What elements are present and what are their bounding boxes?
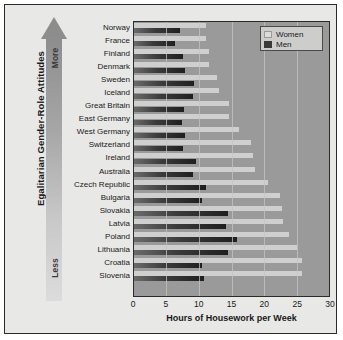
bar-men: [134, 120, 182, 125]
arrow-label-less: Less: [50, 248, 60, 288]
category-label: Denmark: [61, 60, 130, 73]
x-tick-label: 30: [325, 299, 334, 309]
bar-men: [134, 107, 184, 112]
category-label: Croatia: [61, 256, 130, 269]
bar-men: [134, 263, 202, 268]
category-label: Slovenia: [61, 269, 130, 282]
bar-men: [134, 159, 196, 164]
bar-women: [134, 219, 283, 224]
category-label: Lithuania: [61, 243, 130, 256]
x-axis-ticks: 051015202530: [133, 299, 330, 311]
x-tick-label: 10: [194, 299, 203, 309]
x-tick-label: 15: [227, 299, 236, 309]
bar-men: [134, 276, 204, 281]
x-tick-label: 20: [260, 299, 269, 309]
gridline: [199, 22, 200, 296]
chart-frame: Egalitarian Gender-Role Attitudes More L…: [4, 4, 337, 334]
bar-men: [134, 81, 194, 86]
category-label: Slovakia: [61, 204, 130, 217]
legend-label-men: Men: [276, 40, 292, 49]
category-label: West Germany: [61, 125, 130, 138]
bar-women: [134, 153, 253, 158]
category-label: Sweden: [61, 73, 130, 86]
legend-swatch-women-icon: [264, 31, 272, 38]
bar-women: [134, 101, 229, 106]
bar-women: [134, 23, 206, 28]
category-label: Poland: [61, 230, 130, 243]
arrow-label-more: More: [50, 38, 60, 78]
bar-men: [134, 146, 183, 151]
bar-women: [134, 88, 219, 93]
bar-women: [134, 140, 251, 145]
bar-men: [134, 237, 237, 242]
bar-women: [134, 258, 302, 263]
category-label: Finland: [61, 47, 130, 60]
bar-women: [134, 206, 282, 211]
category-label: Czech Republic: [61, 178, 130, 191]
category-label: France: [61, 34, 130, 47]
gridline: [264, 22, 265, 296]
bar-women: [134, 271, 302, 276]
category-label: East Germany: [61, 112, 130, 125]
category-axis-labels: NorwayFranceFinlandDenmarkSwedenIcelandG…: [61, 21, 130, 297]
x-tick-label: 5: [163, 299, 168, 309]
bar-women: [134, 49, 209, 54]
category-label: Switzerland: [61, 138, 130, 151]
bar-men: [134, 28, 180, 33]
bar-women: [134, 245, 297, 250]
gridline: [232, 22, 233, 296]
bar-men: [134, 224, 226, 229]
bar-men: [134, 54, 183, 59]
bar-men: [134, 68, 185, 73]
bar-men: [134, 94, 193, 99]
legend-swatch-men-icon: [264, 41, 272, 48]
bar-men: [134, 185, 206, 190]
category-label: Bulgaria: [61, 191, 130, 204]
legend-item-women: Women: [264, 29, 319, 39]
bar-women: [134, 114, 229, 119]
bar-women: [134, 180, 268, 185]
bar-women: [134, 36, 206, 41]
category-label: Australia: [61, 165, 130, 178]
x-tick-label: 25: [292, 299, 301, 309]
bar-men: [134, 133, 185, 138]
bar-men: [134, 250, 228, 255]
bar-women: [134, 232, 289, 237]
category-label: Ireland: [61, 151, 130, 164]
gridline: [166, 22, 167, 296]
bar-men: [134, 41, 175, 46]
category-label: Latvia: [61, 217, 130, 230]
bar-men: [134, 211, 228, 216]
legend-item-men: Men: [264, 39, 319, 49]
x-axis-label: Hours of Housework per Week: [133, 313, 330, 323]
bar-women: [134, 193, 280, 198]
gridline: [297, 22, 298, 296]
x-tick-label: 0: [131, 299, 136, 309]
bar-women: [134, 127, 239, 132]
chart-legend: Women Men: [260, 26, 323, 51]
category-label: Norway: [61, 21, 130, 34]
bar-women: [134, 75, 217, 80]
legend-label-women: Women: [276, 30, 303, 39]
bar-men: [134, 198, 202, 203]
plot-area: [133, 21, 330, 297]
category-label: Iceland: [61, 86, 130, 99]
category-label: Great Britain: [61, 99, 130, 112]
bar-men: [134, 172, 193, 177]
bar-women: [134, 167, 255, 172]
